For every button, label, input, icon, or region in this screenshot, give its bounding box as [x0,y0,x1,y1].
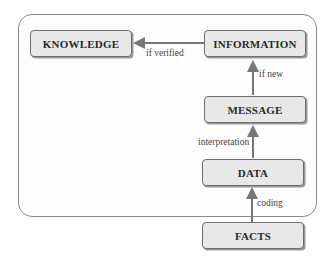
node-knowledge: KNOWLEDGE [30,30,132,57]
node-data-label: DATA [238,167,268,179]
node-data: DATA [202,159,304,186]
edge-label-coding: coding [257,198,283,208]
node-message-label: MESSAGE [227,104,282,116]
node-information: INFORMATION [204,30,306,57]
node-message: MESSAGE [204,96,306,123]
edge-label-if-verified: if verified [146,48,184,58]
node-knowledge-label: KNOWLEDGE [43,38,119,50]
edge-label-interpretation: interpretation [198,137,249,147]
edge-label-if-new: if new [259,69,283,79]
node-information-label: INFORMATION [213,38,296,50]
node-facts: FACTS [202,222,304,249]
node-facts-label: FACTS [235,230,271,242]
